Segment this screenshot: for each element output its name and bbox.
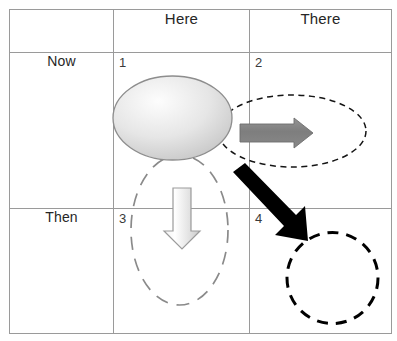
- quadrant-cell-4: 4: [250, 209, 392, 334]
- quadrant-number-1: 1: [119, 56, 126, 69]
- two-by-two-matrix: Here There Now 1 2 Then 3 4: [9, 9, 392, 334]
- quadrant-cell-2: 2: [250, 53, 392, 209]
- quadrant-number-4: 4: [255, 212, 262, 225]
- row-header-then: Then: [10, 209, 114, 334]
- quadrant-cell-3: 3: [114, 209, 250, 334]
- quadrant-number-2: 2: [255, 56, 262, 69]
- row-header-now: Now: [10, 53, 114, 209]
- quadrant-cell-1: 1: [114, 53, 250, 209]
- matrix-corner-cell: [10, 10, 114, 53]
- matrix-row-now: Now 1 2: [10, 53, 392, 209]
- column-header-here: Here: [114, 10, 250, 53]
- matrix-header-row: Here There: [10, 10, 392, 53]
- quadrant-number-3: 3: [119, 212, 126, 225]
- column-header-there: There: [250, 10, 392, 53]
- diagram-canvas: Here There Now 1 2 Then 3 4: [0, 0, 397, 341]
- matrix-row-then: Then 3 4: [10, 209, 392, 334]
